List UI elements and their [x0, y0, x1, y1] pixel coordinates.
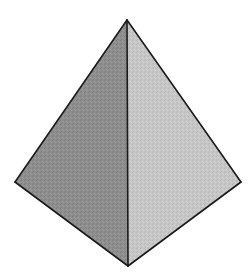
right-face — [127, 20, 241, 266]
edge-center — [127, 20, 128, 266]
tetrahedron-diagram — [0, 0, 251, 278]
left-face — [15, 20, 128, 266]
